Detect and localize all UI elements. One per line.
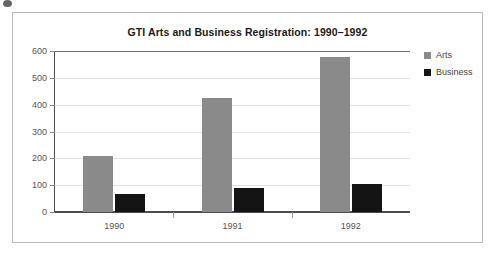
bar-business-1990 xyxy=(115,194,145,212)
bar-arts-1991 xyxy=(202,98,232,212)
plot-area: 0100200300400500600 199019911992 xyxy=(55,51,410,212)
bar-arts-1990 xyxy=(83,156,113,212)
legend-swatch-icon-business xyxy=(424,69,431,76)
legend-label-arts: Arts xyxy=(436,50,452,60)
y-tick-label-600: 600 xyxy=(32,46,47,56)
x-tick-mark-1 xyxy=(173,212,174,218)
bar-arts-1992 xyxy=(320,57,350,212)
bar-business-1992 xyxy=(352,184,382,212)
chart-figure-frame: GTI Arts and Business Registration: 1990… xyxy=(12,12,483,243)
y-tick-mark-500 xyxy=(50,78,55,79)
y-tick-label-400: 400 xyxy=(32,100,47,110)
x-tick-label-1991: 1991 xyxy=(222,221,242,231)
gridline-300 xyxy=(55,132,410,133)
legend-item-arts: Arts xyxy=(424,50,473,60)
y-tick-mark-0 xyxy=(50,212,55,213)
chart-title: GTI Arts and Business Registration: 1990… xyxy=(13,26,482,38)
y-tick-mark-100 xyxy=(50,185,55,186)
x-tick-label-1992: 1992 xyxy=(341,221,361,231)
gridline-600 xyxy=(55,51,410,52)
legend-label-business: Business xyxy=(436,67,473,77)
y-tick-mark-200 xyxy=(50,158,55,159)
x-tick-label-1990: 1990 xyxy=(104,221,124,231)
gridline-500 xyxy=(55,78,410,79)
x-tick-mark-2 xyxy=(292,212,293,218)
y-tick-label-200: 200 xyxy=(32,153,47,163)
y-tick-label-100: 100 xyxy=(32,180,47,190)
legend-item-business: Business xyxy=(424,67,473,77)
bar-business-1991 xyxy=(234,188,264,212)
y-tick-mark-600 xyxy=(50,51,55,52)
gridline-400 xyxy=(55,105,410,106)
page-corner-artifact xyxy=(3,0,12,7)
y-tick-label-300: 300 xyxy=(32,127,47,137)
legend-swatch-icon-arts xyxy=(424,52,431,59)
y-tick-label-0: 0 xyxy=(42,207,47,217)
chart-legend: ArtsBusiness xyxy=(424,50,473,84)
y-tick-mark-300 xyxy=(50,132,55,133)
y-tick-mark-400 xyxy=(50,105,55,106)
y-tick-label-500: 500 xyxy=(32,73,47,83)
